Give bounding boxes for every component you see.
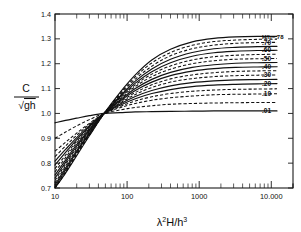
x-axis-title: λ2H/h3 [157, 216, 188, 228]
x-tick-label: 100 [121, 192, 133, 201]
y-axis-numerator: C [22, 82, 30, 94]
series-label: .70 [262, 39, 271, 46]
x-axis-tick-labels: 10100100010.000 [51, 192, 283, 201]
series-label: .20 [262, 80, 271, 87]
y-tick-label: 1.1 [41, 84, 51, 93]
series-label: .10 [262, 90, 271, 97]
y-axis-tick-labels: 0.70.80.91.01.11.21.31.4 [41, 10, 51, 193]
y-tick-label: 1.2 [41, 59, 51, 68]
y-tick-label: 0.7 [41, 184, 51, 193]
h-exponent: 3 [183, 216, 187, 223]
x-tick-label: 1000 [191, 192, 207, 201]
series-label: .01 [262, 107, 271, 114]
x-axis-title-text: λ2H/h3 [157, 216, 188, 228]
y-tick-label: 1.4 [41, 10, 51, 19]
y-axis-denominator: gh [24, 99, 36, 111]
y-axis-denominator-group: √gh [18, 99, 36, 111]
y-axis-ticks [55, 14, 293, 188]
y-tick-label: 1.3 [41, 34, 51, 43]
y-tick-label: 0.8 [41, 159, 51, 168]
plot-border [55, 14, 293, 188]
y-tick-label: 1.0 [41, 109, 51, 118]
series-label: .40 [262, 63, 271, 70]
data-curve [55, 89, 277, 157]
series-label: .30 [262, 71, 271, 78]
series-label: .60 [262, 46, 271, 53]
y-axis-title: C √gh [14, 82, 39, 111]
data-curves [55, 36, 277, 188]
y-tick-label: 0.9 [41, 134, 51, 143]
data-curve [55, 84, 277, 162]
data-curve [55, 79, 277, 165]
data-curve [55, 36, 277, 188]
x-tick-label: 10.000 [260, 192, 283, 201]
series-label: .50 [262, 55, 271, 62]
data-curve [55, 111, 277, 123]
wave-celerity-chart: 0.70.80.91.01.11.21.31.4 10100100010.000… [0, 0, 301, 232]
data-curve [55, 50, 277, 185]
chart-figure: 0.70.80.91.01.11.21.31.4 10100100010.000… [0, 0, 301, 232]
x-axis-Hh: H/h [166, 216, 183, 228]
x-tick-label: 10 [51, 192, 59, 201]
plot-frame [55, 14, 293, 188]
x-axis-ticks [55, 14, 293, 188]
data-curve [55, 71, 277, 172]
